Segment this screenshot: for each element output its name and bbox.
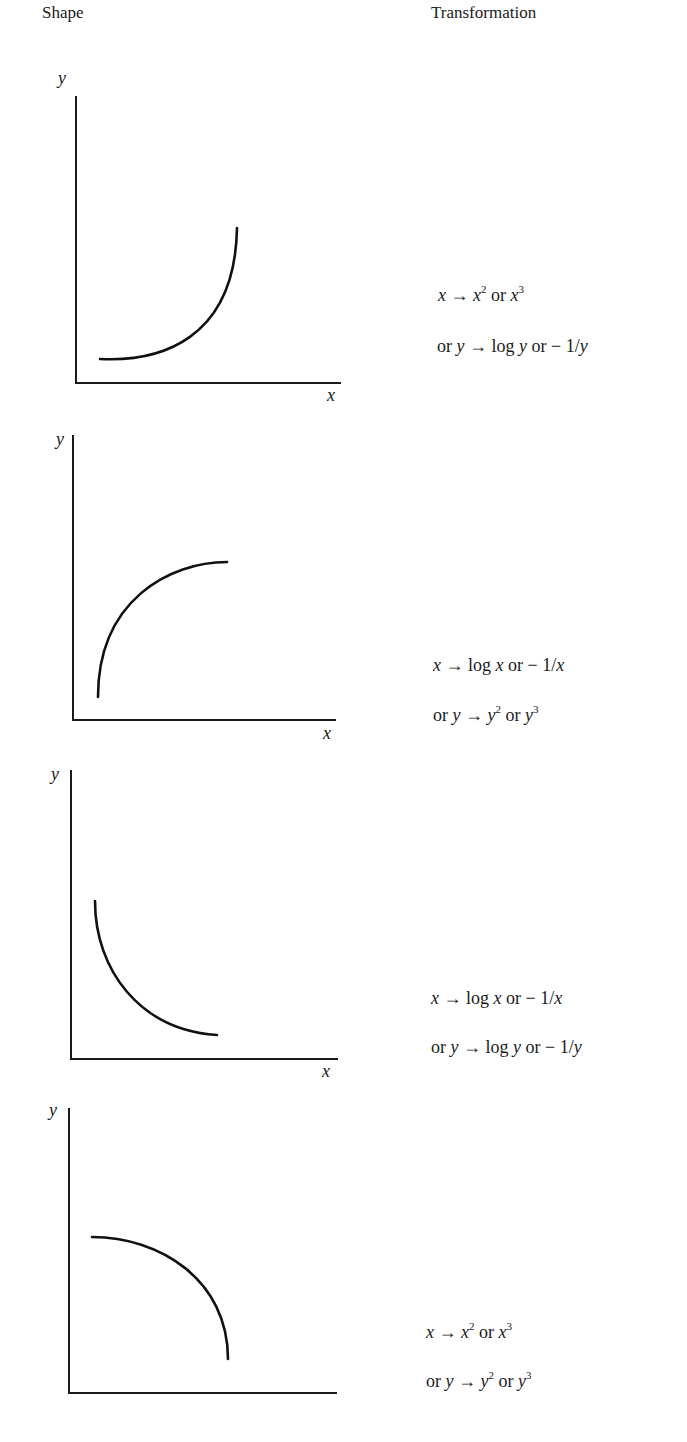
panel-3-y-label: y <box>51 764 59 785</box>
panel-2-axes <box>73 435 336 720</box>
panel-4-y-label: y <box>49 1100 57 1121</box>
panel-3-x-label: x <box>322 1061 330 1082</box>
panel-4-transform-line-2: or y → y2 or y3 <box>426 1369 532 1392</box>
panel-1-transform-line-1: x → x2 or x3 <box>438 283 524 306</box>
panel-1-curve <box>100 228 237 359</box>
panel-3-graph <box>71 770 338 1059</box>
panel-1-transform-line-2: or y → log y or − 1/y <box>437 336 588 357</box>
shape-graphs <box>0 0 687 1442</box>
panel-3-transform-line-2: or y → log y or − 1/y <box>431 1037 582 1058</box>
panel-2-graph <box>73 435 336 720</box>
panel-1-graph <box>76 96 341 383</box>
panel-2-transform-line-1: x → log x or − 1/x <box>433 655 564 676</box>
panel-2-x-label: x <box>323 723 331 744</box>
panel-4-axes <box>69 1108 337 1393</box>
panel-1-y-label: y <box>58 68 66 89</box>
panel-3-transform-line-1: x → log x or − 1/x <box>431 988 562 1009</box>
panel-2-curve <box>98 562 227 697</box>
panel-1-axes <box>76 96 341 383</box>
panel-2-transform-line-2: or y → y2 or y3 <box>433 703 539 726</box>
panel-1-x-label: x <box>327 385 335 406</box>
panel-4-curve <box>92 1237 228 1359</box>
panel-3-axes <box>71 770 338 1059</box>
panel-3-curve <box>95 901 217 1035</box>
panel-4-transform-line-1: x → x2 or x3 <box>426 1320 512 1343</box>
panel-2-y-label: y <box>56 429 64 450</box>
panel-4-graph <box>69 1108 337 1393</box>
